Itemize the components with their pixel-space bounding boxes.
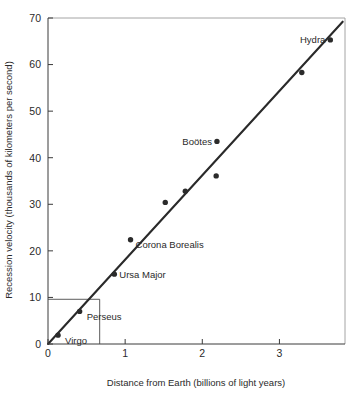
x-tick-label-0: 0 [45, 347, 51, 359]
y-tick-label-1: 10 [29, 291, 41, 303]
data-point-ursa-major [112, 271, 117, 276]
data-point-unlabeled-4 [163, 200, 168, 205]
y-tick-label-2: 20 [29, 245, 41, 257]
data-point-bo-tes [214, 139, 219, 144]
y-tick-label-3: 30 [29, 198, 41, 210]
point-label-bo-tes: Boötes [182, 136, 212, 147]
data-point-labels: VirgoPerseusUrsa MajorCorona BorealisBoö… [65, 34, 326, 346]
data-point-corona-borealis [128, 237, 133, 242]
y-axis-title: Recession velocity (thousands of kilomet… [3, 61, 14, 299]
y-tick-label-4: 40 [29, 152, 41, 164]
chart-canvas: 0102030405060700123 VirgoPerseusUrsa Maj… [0, 0, 358, 393]
hubble-diagram-chart: 0102030405060700123 VirgoPerseusUrsa Maj… [0, 0, 358, 393]
y-tick-label-7: 70 [29, 12, 41, 24]
axis-ticks [48, 18, 279, 344]
point-label-perseus: Perseus [87, 311, 122, 322]
data-point-unlabeled-8 [299, 70, 304, 75]
x-tick-label-2: 2 [199, 347, 205, 359]
x-tick-label-1: 1 [122, 347, 128, 359]
y-tick-label-5: 50 [29, 105, 41, 117]
data-point-hydra [328, 37, 333, 42]
regression-line [48, 22, 343, 344]
x-tick-label-3: 3 [277, 347, 283, 359]
data-point-virgo [55, 332, 60, 337]
y-tick-label-0: 0 [35, 338, 41, 350]
data-point-unlabeled-5 [183, 189, 188, 194]
point-label-hydra: Hydra [300, 34, 326, 45]
data-point-unlabeled-6 [213, 173, 218, 178]
point-label-corona-borealis: Corona Borealis [136, 239, 204, 250]
point-label-ursa-major: Ursa Major [119, 269, 165, 280]
data-point-perseus [77, 309, 82, 314]
best-fit-line [48, 22, 343, 344]
x-axis-title: Distance from Earth (billions of light y… [107, 377, 285, 388]
point-label-virgo: Virgo [65, 335, 87, 346]
data-points [55, 37, 333, 338]
axis-tick-labels: 0102030405060700123 [29, 12, 282, 359]
y-tick-label-6: 60 [29, 58, 41, 70]
